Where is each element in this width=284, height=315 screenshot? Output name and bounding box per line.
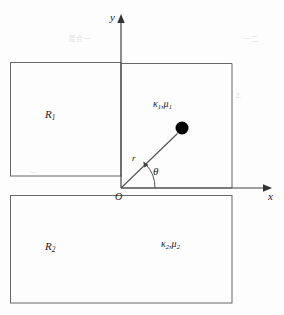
scan-artifact: 混合一 (68, 36, 91, 43)
scan-artifact: 上 (235, 92, 242, 98)
region-1-rect (11, 63, 122, 177)
scan-artifact: 一 (30, 170, 37, 176)
region-1-label: R1 (45, 109, 55, 122)
region-2-label-text: R (45, 240, 52, 252)
region-2-label-sub: 2 (52, 246, 56, 254)
radius-ray-line (121, 134, 178, 189)
source-dot (176, 122, 189, 135)
origin-label: O (115, 192, 122, 202)
mu-2-subscript: 2 (177, 243, 180, 250)
region-2-rect (11, 196, 233, 304)
material-lower-label: κ2,μ2 (161, 239, 180, 250)
radius-label: r (132, 154, 136, 163)
region-1-label-sub: 1 (52, 114, 56, 122)
y-axis-arrowhead (117, 14, 124, 23)
mu-1-subscript: 1 (169, 103, 172, 110)
angle-label: θ (153, 166, 158, 177)
region-1-label-text: R (45, 108, 52, 120)
y-axis-label: y (110, 12, 115, 23)
diagram-svg (0, 0, 284, 315)
x-axis-label: x (268, 191, 273, 202)
figure-canvas: y x O R1 R2 κ1,μ1 κ2,μ2 r θ 混合一 一二 上 一 (0, 0, 284, 315)
region-2-label: R2 (45, 241, 55, 254)
scan-artifact: 一二 (243, 36, 258, 43)
material-upper-label: κ1,μ1 (153, 99, 172, 110)
